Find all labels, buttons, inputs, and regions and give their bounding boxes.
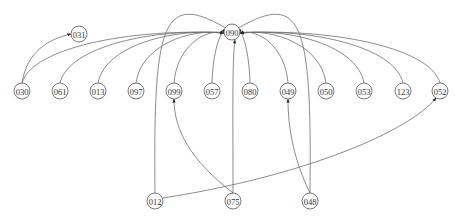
node-075[interactable]: 075 — [225, 193, 241, 209]
node-048[interactable]: 048 — [302, 193, 318, 209]
node-label: 075 — [227, 197, 240, 207]
node-057[interactable]: 057 — [204, 83, 220, 99]
edge-012-to-052 — [163, 98, 436, 198]
node-label: 048 — [304, 197, 317, 207]
edge-123-to-090 — [240, 32, 403, 83]
node-layer: 0900310300610130970990570800490500531230… — [14, 24, 448, 209]
edge-057-to-090 — [212, 32, 224, 83]
node-label: 097 — [130, 87, 143, 97]
node-label: 013 — [92, 87, 105, 97]
node-label: 061 — [54, 87, 67, 97]
node-label: 050 — [320, 87, 333, 97]
node-031[interactable]: 031 — [71, 26, 87, 42]
node-label: 090 — [226, 28, 239, 38]
node-050[interactable]: 050 — [318, 83, 334, 99]
edge-097-to-090 — [136, 32, 224, 83]
edge-075-to-099 — [174, 99, 233, 193]
node-label: 057 — [206, 87, 219, 97]
node-013[interactable]: 013 — [90, 83, 106, 99]
node-label: 080 — [244, 87, 257, 97]
node-012[interactable]: 012 — [147, 193, 163, 209]
edge-030-to-090 — [22, 32, 224, 83]
edge-012-to-090 — [155, 14, 229, 193]
edge-layer — [22, 14, 440, 198]
edge-080-to-090 — [240, 32, 250, 83]
node-052[interactable]: 052 — [432, 83, 448, 99]
edge-053-to-090 — [240, 32, 364, 83]
edge-052-to-090 — [240, 32, 440, 83]
node-label: 049 — [282, 87, 295, 97]
node-label: 053 — [358, 87, 371, 97]
node-label: 030 — [16, 87, 29, 97]
node-053[interactable]: 053 — [356, 83, 372, 99]
edge-050-to-090 — [240, 32, 326, 83]
node-030[interactable]: 030 — [14, 83, 30, 99]
node-123[interactable]: 123 — [395, 83, 411, 99]
node-049[interactable]: 049 — [280, 83, 296, 99]
edge-099-to-090 — [174, 32, 224, 83]
edge-049-to-090 — [240, 32, 288, 83]
node-099[interactable]: 099 — [166, 83, 182, 99]
node-label: 123 — [397, 87, 410, 97]
node-061[interactable]: 061 — [52, 83, 68, 99]
edge-075-to-090 — [233, 40, 235, 193]
node-label: 099 — [168, 87, 181, 97]
node-080[interactable]: 080 — [242, 83, 258, 99]
node-label: 031 — [73, 30, 86, 40]
node-097[interactable]: 097 — [128, 83, 144, 99]
node-label: 012 — [149, 197, 162, 207]
node-label: 052 — [434, 87, 447, 97]
directed-graph-canvas: 0900310300610130970990570800490500531230… — [0, 0, 458, 219]
edge-013-to-090 — [98, 32, 224, 83]
node-090[interactable]: 090 — [224, 24, 240, 40]
edge-048-to-049 — [288, 99, 310, 193]
